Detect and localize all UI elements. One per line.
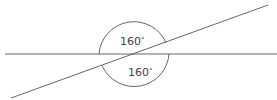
lower-angle-value: 160° (128, 66, 153, 79)
upper-angle-value: 160° (120, 35, 145, 48)
angle-diagram: 160° 160° (0, 0, 277, 100)
transversal-line (11, 5, 268, 98)
diagram-canvas: 160° 160° (0, 0, 277, 100)
